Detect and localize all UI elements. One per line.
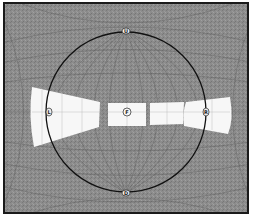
- marker-bottom: D: [122, 190, 130, 196]
- visual-field-diagram: U D L F R: [5, 4, 249, 214]
- marker-right: R: [203, 108, 209, 116]
- marker-top-label: U: [124, 28, 128, 34]
- marker-center: F: [123, 108, 131, 116]
- marker-right-label: R: [204, 109, 208, 115]
- marker-bottom-label: D: [124, 190, 128, 196]
- diagram-frame: U D L F R: [3, 2, 249, 214]
- marker-top: U: [122, 28, 130, 34]
- marker-center-label: F: [125, 109, 128, 115]
- marker-left: L: [46, 108, 52, 116]
